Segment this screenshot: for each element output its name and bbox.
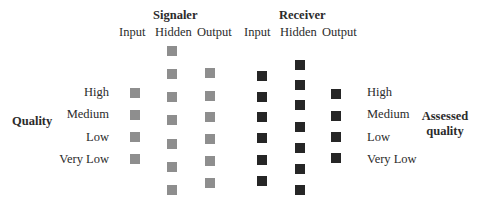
signaler-hidden-header: Hidden	[155, 25, 192, 39]
signaler-output-node	[205, 156, 215, 166]
signaler-title: Signaler	[153, 8, 197, 22]
right-level-medium: Medium	[367, 107, 409, 121]
signaler-output-node	[205, 134, 215, 144]
receiver-output-node	[331, 111, 341, 121]
receiver-input-node	[257, 71, 267, 81]
signaler-hidden-node	[167, 162, 177, 172]
left-level-low: Low	[50, 130, 109, 144]
receiver-input-node	[257, 92, 267, 102]
assessed-quality-label-line1: Assessed	[415, 109, 475, 123]
receiver-output-node	[331, 153, 341, 163]
receiver-input-node	[257, 112, 267, 122]
signaler-output-node	[205, 91, 215, 101]
signaler-hidden-node	[167, 92, 177, 102]
signaler-hidden-node	[167, 185, 177, 195]
receiver-output-header: Output	[322, 25, 357, 39]
receiver-hidden-node	[295, 143, 305, 153]
receiver-input-header: Input	[244, 25, 270, 39]
signaler-output-node	[205, 178, 215, 188]
receiver-hidden-node	[295, 80, 305, 90]
signaler-input-node	[130, 110, 140, 120]
left-level-high: High	[50, 85, 109, 99]
signaler-hidden-node	[167, 69, 177, 79]
signaler-hidden-node	[167, 46, 177, 56]
receiver-hidden-node	[295, 60, 305, 70]
receiver-hidden-node	[295, 164, 305, 174]
right-level-high: High	[367, 85, 392, 99]
receiver-hidden-node	[295, 100, 305, 110]
receiver-title: Receiver	[279, 8, 326, 22]
signaler-input-header: Input	[119, 25, 145, 39]
receiver-output-node	[331, 132, 341, 142]
quality-label: Quality	[12, 114, 52, 128]
assessed-quality-label-line2: quality	[415, 124, 475, 138]
receiver-hidden-header: Hidden	[280, 25, 317, 39]
signaler-input-node	[130, 88, 140, 98]
signaler-hidden-node	[167, 115, 177, 125]
signaler-input-node	[130, 154, 140, 164]
right-level-low: Low	[367, 130, 390, 144]
right-level-very-low: Very Low	[367, 152, 417, 166]
receiver-input-node	[257, 155, 267, 165]
signaler-output-node	[205, 112, 215, 122]
receiver-output-node	[331, 89, 341, 99]
receiver-hidden-node	[295, 185, 305, 195]
signaler-hidden-node	[167, 139, 177, 149]
receiver-input-node	[257, 176, 267, 186]
signaler-input-node	[130, 132, 140, 142]
signaler-output-header: Output	[197, 25, 232, 39]
left-level-medium: Medium	[50, 107, 109, 121]
receiver-hidden-node	[295, 122, 305, 132]
receiver-input-node	[257, 133, 267, 143]
signaler-output-node	[205, 68, 215, 78]
left-level-very-low: Very Low	[50, 152, 109, 166]
